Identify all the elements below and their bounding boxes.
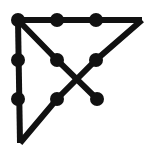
node-bottom-right-end <box>90 92 104 106</box>
node-bottom-mid <box>50 92 64 106</box>
edges-group <box>18 20 142 143</box>
node-left-lower <box>11 92 25 106</box>
node-top-mid <box>50 13 64 27</box>
node-left-upper <box>11 53 25 67</box>
node-link-glyph <box>0 0 156 158</box>
node-center-left <box>50 53 64 67</box>
node-top-left <box>11 13 25 27</box>
edge-left-edge <box>18 20 20 143</box>
node-center-right <box>89 53 103 67</box>
glyph-canvas <box>0 0 156 158</box>
node-top-right-inner <box>89 13 103 27</box>
